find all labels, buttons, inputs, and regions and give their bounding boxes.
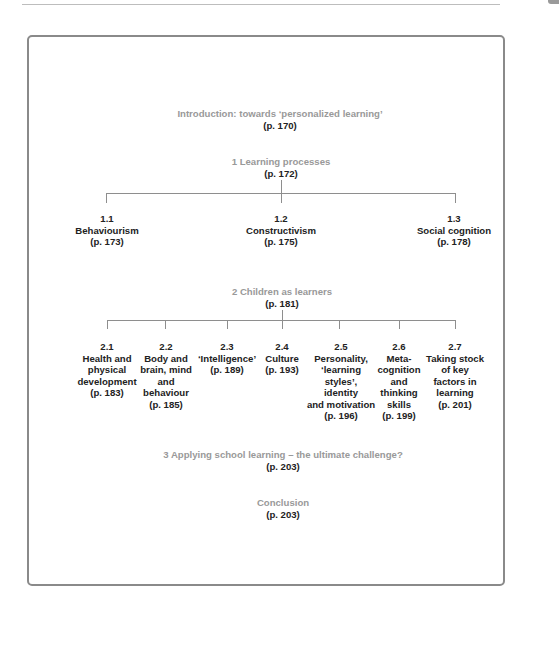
section2-title: 2 Children as learners [232,286,332,298]
section3-node: 3 Applying school learning – the ultimat… [163,449,403,472]
section1-tick-3 [455,193,456,203]
section2-tick-5 [339,320,340,329]
conclusion-node: Conclusion (p. 203) [257,497,309,520]
child-title-line: and motivation [307,399,375,411]
child-title-line: and [377,376,420,388]
child-title-line: styles’, [307,376,375,388]
child-title-line: cognition [377,364,420,376]
section2-page: (p. 181) [232,298,332,310]
child-page: (p. 193) [265,364,299,376]
child-page: (p. 196) [307,410,375,422]
section3-title: 3 Applying school learning – the ultimat… [163,449,403,461]
child-title-line: Culture [265,353,299,365]
child-title-line: of key [426,364,484,376]
section1-child-1: 1.1 Behaviourism (p. 173) [75,213,138,248]
child-number: 1.3 [417,213,491,225]
child-page: (p. 173) [75,236,138,248]
child-page: (p. 185) [140,399,192,411]
section2-child-6: 2.6 Meta- cognition and thinking skills … [377,341,420,422]
child-title-line: learning [426,387,484,399]
child-number: 2.4 [265,341,299,353]
child-number: 2.2 [140,341,192,353]
child-number: 2.3 [198,341,256,353]
child-page: (p. 175) [246,236,316,248]
section2-child-4: 2.4 Culture (p. 193) [265,341,299,376]
section1-page: (p. 172) [232,168,331,180]
child-title-line: ‘learning [307,364,375,376]
child-title-line: ‘Intelligence’ [198,353,256,365]
child-title-line: factors in [426,376,484,388]
section2-tick-4 [282,320,283,329]
child-title-line: Meta- [377,353,420,365]
section2-tick-2 [165,320,166,329]
child-number: 1.1 [75,213,138,225]
child-number: 2.1 [77,341,136,353]
intro-page: (p. 170) [177,120,382,132]
child-title-line: Personality, [307,353,375,365]
child-number: 1.2 [246,213,316,225]
section2-child-2: 2.2 Body and brain, mind and behaviour (… [140,341,192,410]
intro-title: Introduction: towards ‘personalized lear… [177,108,382,120]
child-title: Social cognition [417,225,491,237]
child-title-line: brain, mind [140,364,192,376]
child-title-line: Taking stock [426,353,484,365]
section1-title: 1 Learning processes [232,156,331,168]
section1-child-3: 1.3 Social cognition (p. 178) [417,213,491,248]
section1-child-2: 1.2 Constructivism (p. 175) [246,213,316,248]
section2-tick-3 [227,320,228,329]
child-title-line: and [140,376,192,388]
conclusion-page: (p. 203) [257,509,309,521]
section1-stem [281,180,282,194]
child-title-line: thinking [377,387,420,399]
section1-tick-1 [106,193,107,203]
section2-node: 2 Children as learners (p. 181) [232,286,332,309]
child-page: (p. 178) [417,236,491,248]
section2-child-7: 2.7 Taking stock of key factors in learn… [426,341,484,410]
child-title-line: Health and [77,353,136,365]
child-title: Behaviourism [75,225,138,237]
child-title-line: behaviour [140,387,192,399]
child-page: (p. 189) [198,364,256,376]
child-number: 2.5 [307,341,375,353]
section2-child-3: 2.3 ‘Intelligence’ (p. 189) [198,341,256,376]
child-title-line: skills [377,399,420,411]
child-title: Constructivism [246,225,316,237]
section2-tick-6 [399,320,400,329]
section2-bar [107,320,455,321]
child-number: 2.7 [426,341,484,353]
child-page: (p. 183) [77,387,136,399]
section2-tick-1 [107,320,108,329]
section1-tick-2 [281,193,282,203]
page-corner-mark [548,0,559,4]
section2-tick-7 [455,320,456,329]
child-page: (p. 199) [377,410,420,422]
child-title-line: Body and [140,353,192,365]
page-top-rule [22,4,500,5]
child-page: (p. 201) [426,399,484,411]
section1-node: 1 Learning processes (p. 172) [232,156,331,179]
intro-node: Introduction: towards ‘personalized lear… [177,108,382,131]
child-title-line: identity [307,387,375,399]
section2-child-1: 2.1 Health and physical development (p. … [77,341,136,399]
section3-page: (p. 203) [163,461,403,473]
section2-child-5: 2.5 Personality, ‘learning styles’, iden… [307,341,375,422]
child-title-line: physical [77,364,136,376]
conclusion-title: Conclusion [257,497,309,509]
child-number: 2.6 [377,341,420,353]
child-title-line: development [77,376,136,388]
